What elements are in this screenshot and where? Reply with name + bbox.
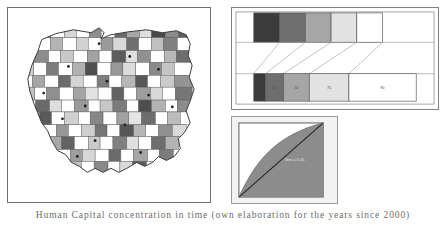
legend-bottom-row bbox=[254, 74, 416, 101]
legend-label-5: 90 bbox=[381, 86, 385, 90]
legend-label-3: 50 bbox=[294, 86, 298, 90]
legend-top-row bbox=[254, 13, 383, 42]
legend-top-swatch-2[interactable] bbox=[280, 13, 306, 42]
lorenz-annotation: Gini = 0.41 bbox=[285, 157, 306, 162]
map-panel bbox=[7, 7, 211, 203]
legend-panel: 10 25 50 75 90 bbox=[231, 7, 439, 110]
legend-label-4: 75 bbox=[327, 86, 331, 90]
legend-label-1: 10 bbox=[258, 86, 262, 90]
lorenz-panel: Gini = 0.41 bbox=[231, 116, 338, 204]
legend-top-swatch-3[interactable] bbox=[305, 13, 331, 42]
legend-top-swatch-1[interactable] bbox=[254, 13, 280, 42]
legend-top-swatch-4[interactable] bbox=[331, 13, 357, 42]
legend-top-swatch-5[interactable] bbox=[357, 13, 383, 42]
lorenz-curve-chart: Gini = 0.41 bbox=[236, 121, 333, 199]
map-regions bbox=[8, 8, 210, 202]
poland-choropleth-map bbox=[8, 8, 210, 202]
figure-caption: Human Capital concentration in time (own… bbox=[0, 209, 446, 222]
classification-legend: 10 25 50 75 90 bbox=[232, 8, 438, 109]
legend-label-2: 25 bbox=[273, 86, 277, 90]
figure-root: 10 25 50 75 90 Gini = 0.41 Human Capital… bbox=[0, 0, 446, 225]
